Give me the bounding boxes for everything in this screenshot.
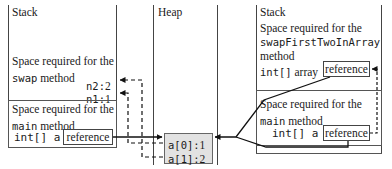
dashed-arrow-ref-copy xyxy=(370,69,377,133)
right-main-reference-line xyxy=(236,137,348,147)
arrows-overlay xyxy=(0,0,392,169)
right-swap-reference-arrow xyxy=(215,77,330,137)
dashed-arrow-a1-to-n2 xyxy=(120,80,163,157)
